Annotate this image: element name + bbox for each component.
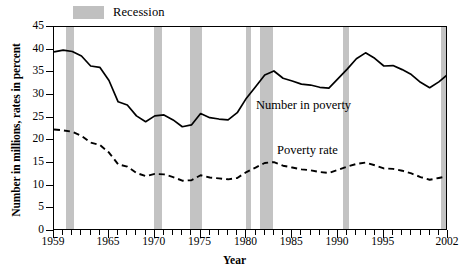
- y-tick: [46, 185, 53, 186]
- y-tick: [46, 207, 53, 208]
- y-tick-label: 30: [4, 88, 44, 99]
- x-tick-label: 2002: [425, 235, 469, 247]
- x-tick-label: 1970: [132, 235, 176, 247]
- x-tick: [420, 230, 421, 235]
- y-tick: [46, 94, 53, 95]
- y-tick: [46, 162, 53, 163]
- y-tick-label: 40: [4, 43, 44, 54]
- y-tick: [46, 139, 53, 140]
- recession-legend-label: Recession: [113, 6, 165, 19]
- series-line-poverty-rate: [54, 129, 447, 180]
- x-axis-title: Year: [0, 254, 469, 266]
- y-tick-label: 5: [4, 201, 44, 212]
- number-in-poverty-annotation: Number in poverty: [256, 98, 351, 113]
- y-tick: [46, 230, 53, 231]
- y-tick: [46, 117, 53, 118]
- x-tick: [80, 230, 81, 235]
- y-tick-label: 0: [4, 224, 44, 235]
- x-tick-label: 1965: [86, 235, 130, 247]
- chart-root: Recession Number in millions, rates in p…: [0, 0, 469, 276]
- plot-area: [53, 26, 447, 230]
- poverty-rate-annotation: Poverty rate: [277, 143, 338, 158]
- x-tick-label: 1995: [361, 235, 405, 247]
- y-tick-label: 20: [4, 133, 44, 144]
- y-tick-label: 15: [4, 156, 44, 167]
- series-line-number-in-poverty: [54, 50, 447, 127]
- recession-legend-swatch: [73, 6, 104, 19]
- x-tick-label: 1959: [31, 235, 75, 247]
- y-tick-label: 35: [4, 65, 44, 76]
- chart-legend: Recession: [73, 6, 165, 19]
- y-tick: [46, 26, 53, 27]
- y-tick-label: 45: [4, 20, 44, 31]
- x-tick: [410, 230, 411, 235]
- x-tick-label: 1985: [269, 235, 313, 247]
- x-tick-label: 1980: [223, 235, 267, 247]
- y-axis-title: Number in millions, rates in percent: [10, 30, 22, 230]
- series-layer: [54, 27, 447, 230]
- x-tick-label: 1975: [178, 235, 222, 247]
- y-tick-label: 25: [4, 111, 44, 122]
- y-tick: [46, 49, 53, 50]
- x-tick-label: 1990: [315, 235, 359, 247]
- y-tick-label: 10: [4, 179, 44, 190]
- y-tick: [46, 71, 53, 72]
